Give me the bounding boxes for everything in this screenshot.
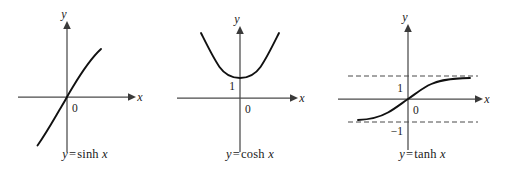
cosh-caption-equals: =	[232, 147, 241, 161]
tanh-y-axis-label: y	[401, 10, 408, 24]
sinh-origin-label: 0	[72, 102, 78, 114]
cosh-y-axis-arrow-icon	[236, 26, 244, 34]
sinh-caption: y=sinh x	[0, 147, 170, 162]
sinh-y-axis-arrow-icon	[63, 21, 71, 29]
tanh-caption-equals: =	[405, 147, 414, 161]
panel-cosh: y x 1 0 y=cosh x	[170, 0, 330, 180]
cosh-caption: y=cosh x	[170, 147, 330, 162]
sinh-caption-equals: =	[68, 147, 77, 161]
tanh-caption: y=tanh x	[330, 147, 515, 162]
tanh-x-axis-arrow-icon	[475, 95, 483, 103]
sinh-x-axis-label: x	[136, 90, 143, 104]
cosh-x-axis-arrow-icon	[290, 94, 298, 102]
cosh-origin-label: 0	[245, 103, 251, 115]
cosh-tick-label-one: 1	[229, 80, 235, 92]
sinh-caption-function: sinh	[77, 147, 99, 161]
tanh-caption-function: tanh	[414, 147, 436, 161]
cosh-caption-variable: x	[268, 147, 274, 161]
cosh-x-axis-label: x	[298, 91, 305, 105]
panel-tanh: y x 1 −1 0 y=tanh x	[330, 0, 515, 180]
panel-sinh: y x 0 y=sinh x	[0, 0, 170, 180]
hyperbolic-functions-figure: y x 0 y=sinh x y x 1 0 y=cosh x	[0, 0, 515, 180]
tanh-origin-label: 0	[413, 104, 419, 116]
cosh-caption-function: cosh	[241, 147, 265, 161]
sinh-caption-variable: x	[102, 147, 108, 161]
tanh-tick-label-one: 1	[397, 82, 403, 94]
cosh-y-axis-label: y	[233, 12, 240, 26]
tanh-caption-variable: x	[440, 147, 446, 161]
tanh-x-axis-label: x	[483, 92, 490, 106]
tanh-tick-label-negative-one: −1	[391, 125, 403, 137]
cosh-caption-y: y	[226, 147, 232, 161]
sinh-y-axis-label: y	[60, 7, 67, 21]
tanh-y-axis-arrow-icon	[404, 24, 412, 32]
sinh-x-axis-arrow-icon	[128, 93, 136, 101]
